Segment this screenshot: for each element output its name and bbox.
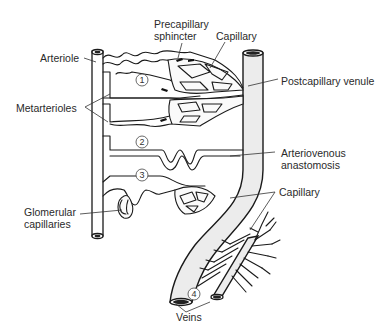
svg-text:2: 2 <box>139 137 144 147</box>
number-3-marker: 3 <box>136 169 148 181</box>
microcirculation-diagram: 1 2 3 4 Arteriole Precapillary sphincter… <box>0 0 390 325</box>
pathway-2 <box>103 136 243 170</box>
label-postcapillary-venule: Postcapillary venule <box>281 75 375 87</box>
label-capillary-top: Capillary <box>216 30 258 42</box>
label-precapillary-sphincter-1: Precapillary <box>154 18 210 30</box>
svg-text:4: 4 <box>191 289 196 299</box>
number-4-marker: 4 <box>188 288 200 300</box>
number-2-marker: 2 <box>136 136 148 148</box>
label-arteriovenous-1: Arteriovenous <box>281 147 346 159</box>
pathway-3 <box>103 176 215 218</box>
label-capillary-bottom: Capillary <box>279 186 321 198</box>
svg-text:1: 1 <box>139 75 144 85</box>
label-veins: Veins <box>176 311 202 323</box>
label-glomerular-2: capillaries <box>24 218 71 230</box>
pathway-1 <box>103 51 243 98</box>
number-1-marker: 1 <box>136 74 148 86</box>
label-glomerular-1: Glomerular <box>24 206 76 218</box>
label-arteriole: Arteriole <box>40 52 79 64</box>
svg-text:3: 3 <box>139 170 144 180</box>
label-metarterioles: Metarterioles <box>16 102 77 114</box>
arteriole-tube <box>92 50 103 239</box>
label-precapillary-sphincter-2: sphincter <box>154 30 197 42</box>
metarterioles <box>103 95 243 127</box>
label-arteriovenous-2: anastomosis <box>281 159 340 171</box>
